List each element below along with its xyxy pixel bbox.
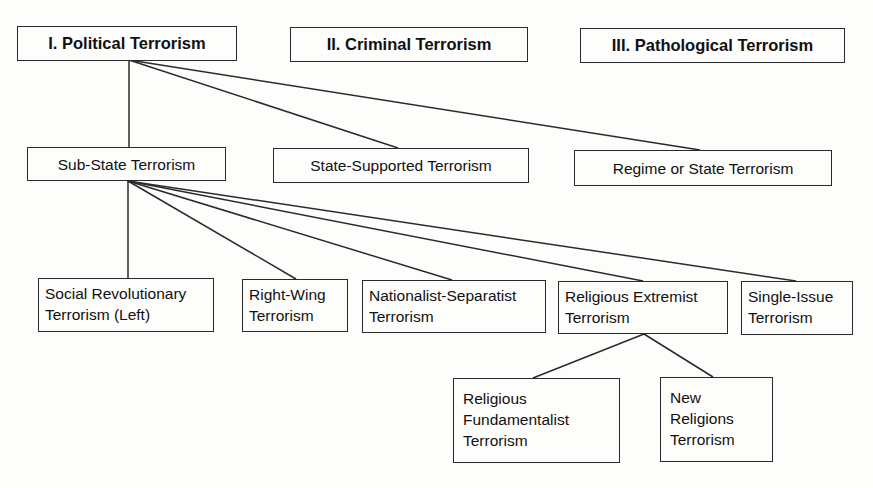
node-nationalist-separatist-terrorism: Nationalist-Separatist Terrorism: [362, 280, 546, 333]
node-label: III. Pathological Terrorism: [612, 35, 813, 56]
edge-political-statesupported: [129, 60, 398, 148]
node-label: Nationalist-Separatist Terrorism: [369, 287, 516, 325]
edge-substate-rightwing: [128, 181, 296, 279]
node-religious-extremist-terrorism: Religious Extremist Terrorism: [558, 281, 728, 334]
node-label: New Religions Terrorism: [670, 389, 735, 448]
node-label: Religious Fundamentalist Terrorism: [463, 390, 569, 449]
node-single-issue-terrorism: Single-Issue Terrorism: [741, 281, 853, 335]
node-criminal-terrorism: II. Criminal Terrorism: [290, 27, 528, 62]
node-label: II. Criminal Terrorism: [327, 34, 492, 55]
edge-substate-singleissue: [128, 181, 796, 281]
edge-religious-fundamentalist: [533, 334, 644, 378]
node-label: Single-Issue Terrorism: [748, 288, 833, 326]
node-label: Right-Wing Terrorism: [249, 286, 326, 324]
node-label: Social Revolutionary Terrorism (Left): [45, 285, 186, 323]
node-label: State-Supported Terrorism: [310, 155, 492, 176]
node-social-revolutionary-terrorism: Social Revolutionary Terrorism (Left): [38, 278, 214, 332]
edge-substate-nationalist: [128, 181, 452, 280]
node-state-supported-terrorism: State-Supported Terrorism: [273, 148, 529, 183]
node-label: Religious Extremist Terrorism: [565, 288, 698, 326]
node-regime-state-terrorism: Regime or State Terrorism: [574, 150, 832, 186]
node-political-terrorism: I. Political Terrorism: [17, 26, 237, 61]
node-religious-fundamentalist-terrorism: Religious Fundamentalist Terrorism: [453, 378, 620, 463]
edge-religious-newreligions: [644, 334, 713, 377]
node-label: Sub-State Terrorism: [58, 154, 196, 175]
node-substate-terrorism: Sub-State Terrorism: [27, 147, 226, 181]
node-label: Regime or State Terrorism: [613, 158, 794, 179]
node-label: I. Political Terrorism: [48, 33, 205, 54]
node-new-religions-terrorism: New Religions Terrorism: [660, 377, 773, 462]
node-pathological-terrorism: III. Pathological Terrorism: [580, 28, 845, 63]
terrorism-typology-diagram: I. Political Terrorism II. Criminal Terr…: [0, 0, 873, 488]
edge-substate-religious: [128, 181, 643, 281]
node-right-wing-terrorism: Right-Wing Terrorism: [242, 279, 348, 332]
edge-political-regime: [129, 60, 700, 150]
